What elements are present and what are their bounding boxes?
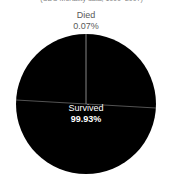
died-value: 0.07% [56,21,116,32]
survived-label: Survived [56,103,116,114]
died-label: Died [56,10,116,21]
survived-value: 99.93% [56,114,116,125]
